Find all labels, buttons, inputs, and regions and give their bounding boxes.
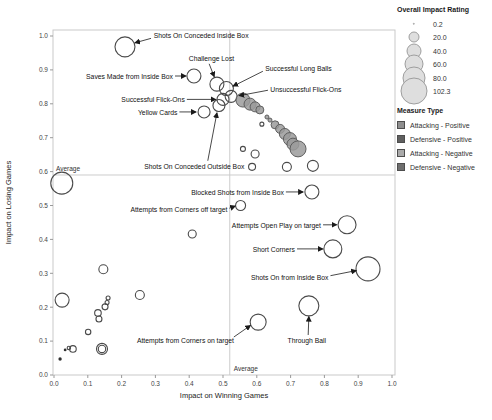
type-legend-entry: Defensive - Positive (397, 132, 492, 146)
annotation-blocked-shots-from-inside-box: Blocked Shots from Inside Box (191, 189, 284, 196)
type-legend-label: Defensive - Positive (410, 136, 472, 143)
data-point (95, 310, 102, 317)
annotation-shots-on-conceded-inside-box: Shots On Conceded Inside Box (154, 32, 249, 39)
size-legend-bubble-icon (409, 32, 420, 43)
size-legend-value: 0.2 (433, 20, 443, 27)
type-legend-entry: Attacking - Positive (397, 118, 492, 132)
average-x-label: Average (234, 365, 258, 373)
annotation-shots-on-conceded-outside-box: Shots On Conceded Outside Box (144, 163, 245, 170)
x-tick-label: 0.3 (151, 380, 160, 387)
annotation-successful-flick-ons: Successful Flick-Ons (121, 96, 185, 103)
y-tick-label: 1.0 (39, 32, 48, 39)
type-legend-swatch-icon (397, 163, 405, 171)
type-legend-label: Defensive - Negative (410, 164, 475, 171)
size-legend-value: 20.0 (433, 34, 447, 41)
point-attempts-open-play-on-target (338, 216, 356, 234)
x-tick-label: 0.7 (286, 380, 295, 387)
data-point (102, 304, 108, 310)
point-blocked-shots-from-inside-box (305, 185, 319, 199)
x-tick-label: 0.8 (320, 380, 329, 387)
type-legend: Attacking - PositiveDefensive - Positive… (397, 118, 492, 174)
x-tick-label: 0.5 (218, 380, 227, 387)
point-shots-on-from-inside-box (356, 257, 380, 281)
y-tick-label: 0.0 (39, 371, 48, 378)
data-point (256, 106, 264, 114)
annotation-successful-long-balls: Successful Long Balls (265, 65, 332, 73)
point-through-ball (299, 296, 319, 316)
y-tick-label: 0.7 (39, 134, 48, 141)
data-point (67, 346, 70, 349)
data-point (55, 293, 69, 307)
x-tick-label: 1.0 (387, 380, 396, 387)
y-tick-label: 0.2 (39, 304, 48, 311)
data-point (260, 122, 264, 126)
data-point (96, 316, 102, 322)
annotation-short-corners: Short Corners (253, 246, 296, 253)
y-tick-label: 0.3 (39, 270, 48, 277)
data-point (268, 118, 272, 122)
annotation-arrow-shots-on-conceded-outside-box (208, 113, 217, 161)
data-point (85, 329, 90, 334)
type-legend-entry: Attacking - Negative (397, 146, 492, 160)
data-point (307, 160, 318, 171)
y-axis-label: Impact on Losing Games (4, 161, 13, 245)
x-axis-label: Impact on Winning Games (180, 391, 269, 400)
data-point (58, 357, 61, 360)
size-legend-entry: 0.2 (397, 17, 492, 31)
annotation-attempts-open-play-on-target: Attempts Open Play on target (232, 222, 321, 230)
data-point (64, 349, 67, 352)
x-tick-label: 0.4 (185, 380, 194, 387)
annotation-arrow-challenge-lost (209, 64, 214, 77)
annotation-arrow-attempts-from-corners-off-target (229, 206, 235, 208)
size-legend-bubble-icon (401, 78, 428, 105)
data-point (282, 162, 291, 171)
annotation-yellow-cards: Yellow Cards (138, 109, 178, 116)
data-point (98, 345, 105, 352)
annotation-challenge-lost: Challenge Lost (189, 55, 234, 63)
point-challenge-lost (210, 77, 224, 91)
point-unsuccessful-flick-ons (225, 90, 237, 102)
annotation-attempts-from-corners-on-target: Attempts from Corners on target (137, 337, 234, 345)
y-tick-label: 0.9 (39, 66, 48, 73)
size-legend-value: 60.0 (433, 61, 447, 68)
point-attempts-from-corners-off-target (236, 201, 246, 211)
type-legend-title: Measure Type (397, 107, 492, 114)
type-legend-label: Attacking - Positive (410, 122, 470, 129)
size-legend-title: Overall Impact Rating (397, 6, 492, 13)
type-legend-swatch-icon (397, 135, 405, 143)
legend-panel: Overall Impact Rating 0.220.040.060.080.… (397, 6, 492, 174)
x-tick-label: 0.0 (49, 380, 58, 387)
x-tick-label: 0.2 (117, 380, 126, 387)
data-point (290, 141, 306, 157)
size-legend-entry: 102.3 (397, 85, 492, 99)
point-yellow-cards (198, 106, 210, 118)
y-tick-label: 0.6 (39, 168, 48, 175)
y-tick-label: 0.4 (39, 236, 48, 243)
x-tick-label: 0.1 (83, 380, 92, 387)
size-legend-entry: 20.0 (397, 31, 492, 45)
annotation-through-ball: Through Ball (288, 337, 327, 345)
x-tick-label: 0.6 (252, 380, 261, 387)
x-tick-label: 0.9 (354, 380, 363, 387)
type-legend-swatch-icon (397, 121, 405, 129)
data-point (240, 146, 245, 151)
y-tick-label: 0.8 (39, 100, 48, 107)
point-shots-on-conceded-inside-box (115, 37, 135, 57)
size-legend-value: 102.3 (433, 88, 451, 95)
annotation-arrow-shots-on-from-inside-box (330, 271, 356, 276)
y-tick-label: 0.1 (39, 337, 48, 344)
data-point (99, 265, 108, 274)
annotation-arrow-successful-long-balls (233, 71, 263, 86)
type-legend-label: Attacking - Negative (410, 150, 473, 157)
annotation-saves-made-from-inside-box: Saves Made from Inside Box (86, 73, 173, 80)
size-legend: 0.220.040.060.080.0102.3 (397, 17, 492, 98)
annotation-arrow-attempts-from-corners-on-target (234, 326, 251, 338)
size-legend-value: 80.0 (433, 74, 447, 81)
annotation-arrow-shots-on-conceded-inside-box (135, 38, 151, 42)
type-legend-entry: Defensive - Negative (397, 160, 492, 174)
annotation-arrow-through-ball (308, 317, 309, 335)
size-legend-bubble-icon (413, 23, 415, 25)
size-legend-value: 40.0 (433, 47, 447, 54)
data-point (251, 150, 259, 158)
point-attempts-from-corners-on-target (250, 314, 266, 330)
